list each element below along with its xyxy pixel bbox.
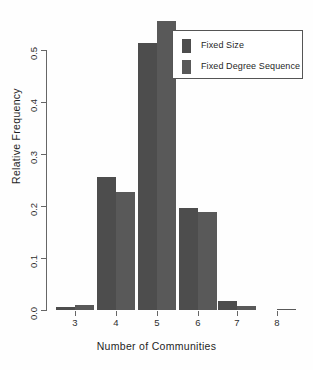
x-tick <box>277 311 278 316</box>
bar-chart: 0.00.10.20.30.40.5 Relative Frequency 34… <box>0 0 313 370</box>
bar <box>138 43 157 310</box>
bar <box>218 301 237 310</box>
y-tick <box>41 102 46 103</box>
x-tick-label: 6 <box>188 317 208 328</box>
x-tick-label: 7 <box>227 317 247 328</box>
x-tick-label: 5 <box>147 317 167 328</box>
legend-swatch <box>182 60 191 74</box>
y-axis-line <box>46 50 47 311</box>
y-tick <box>41 258 46 259</box>
y-axis-title: Relative Frequency <box>10 76 22 196</box>
y-tick-label: 0.2 <box>0 199 40 217</box>
legend-label: Fixed Degree Sequence <box>201 61 300 71</box>
x-tick <box>157 311 158 316</box>
legend-swatch <box>182 39 191 53</box>
x-tick <box>198 311 199 316</box>
y-tick-label: 0.5 <box>0 43 40 61</box>
x-axis-title: Number of Communities <box>0 340 313 352</box>
y-tick <box>41 206 46 207</box>
bar <box>56 307 75 310</box>
bar <box>277 309 296 310</box>
x-tick-label: 8 <box>267 317 287 328</box>
y-tick <box>41 50 46 51</box>
legend: Fixed SizeFixed Degree Sequence <box>172 30 303 79</box>
bar <box>179 208 198 310</box>
x-tick-label: 4 <box>106 317 126 328</box>
y-tick-label: 0.0 <box>0 303 40 321</box>
x-tick-label: 3 <box>65 317 85 328</box>
bar <box>237 306 256 310</box>
y-tick <box>41 310 46 311</box>
bar <box>97 177 116 310</box>
legend-label: Fixed Size <box>201 40 244 50</box>
bar <box>75 305 94 310</box>
y-tick-label: 0.1 <box>0 251 40 269</box>
x-tick <box>75 311 76 316</box>
x-tick <box>116 311 117 316</box>
bar <box>198 212 217 310</box>
x-tick <box>237 311 238 316</box>
bar <box>116 192 135 310</box>
y-tick <box>41 154 46 155</box>
